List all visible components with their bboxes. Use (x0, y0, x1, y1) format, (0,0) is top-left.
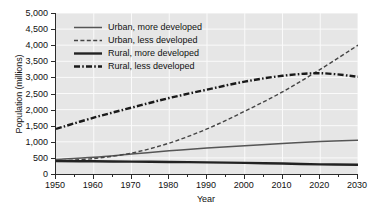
legend-label: Urban, more developed (108, 22, 202, 33)
x-tick-mark (55, 174, 56, 179)
x-tick-label: 2030 (337, 180, 371, 190)
x-tick-mark (187, 174, 188, 177)
legend-item: Urban, less developed (74, 34, 212, 47)
y-tick-mark (51, 61, 55, 62)
y-tick-label: 3,500 (8, 57, 48, 66)
y-tick-mark (51, 142, 55, 143)
x-tick-mark (244, 174, 245, 179)
x-tick-mark (225, 174, 226, 177)
y-tick-mark (51, 158, 55, 159)
x-tick-label: 2020 (299, 180, 339, 190)
legend-label: Urban, less developed (108, 35, 198, 46)
legend-item: Urban, more developed (74, 21, 212, 34)
x-tick-mark (168, 174, 169, 179)
y-tick-label: 4,000 (8, 41, 48, 50)
legend-label: Rural, less developed (108, 61, 195, 72)
y-tick-mark (51, 126, 55, 127)
x-tick-label: 2000 (224, 180, 264, 190)
x-tick-mark (300, 174, 301, 177)
x-tick-label: 1980 (148, 180, 188, 190)
y-tick-label: 2,000 (8, 105, 48, 114)
legend-label: Rural, more developed (108, 48, 199, 59)
legend-line-swatch (74, 48, 102, 59)
x-tick-label: 2010 (262, 180, 302, 190)
legend-item: Rural, less developed (74, 60, 212, 73)
y-axis-tick-labels: 05001,0001,5002,0002,5003,0003,5004,0004… (8, 13, 48, 174)
y-tick-mark (51, 45, 55, 46)
legend-line-swatch (74, 35, 102, 46)
x-axis-tick-labels: 195019601970198019902000201020202030 (55, 180, 357, 192)
y-tick-label: 3,000 (8, 73, 48, 82)
y-tick-mark (51, 94, 55, 95)
x-tick-mark (338, 174, 339, 177)
x-tick-label: 1970 (111, 180, 151, 190)
x-tick-mark (282, 174, 283, 179)
y-tick-label: 5,000 (8, 9, 48, 18)
x-tick-mark (112, 174, 113, 177)
y-tick-label: 0 (8, 170, 48, 179)
x-tick-label: 1950 (35, 180, 75, 190)
y-tick-mark (51, 29, 55, 30)
y-tick-label: 1,500 (8, 121, 48, 130)
y-tick-mark (51, 110, 55, 111)
x-tick-mark (131, 174, 132, 179)
x-tick-mark (149, 174, 150, 177)
x-tick-mark (74, 174, 75, 177)
x-tick-mark (93, 174, 94, 179)
x-tick-mark (357, 174, 358, 179)
x-tick-mark (263, 174, 264, 177)
y-tick-mark (51, 13, 55, 14)
x-tick-mark (206, 174, 207, 179)
x-tick-mark (319, 174, 320, 179)
legend-item: Rural, more developed (74, 47, 212, 60)
y-tick-label: 4,500 (8, 25, 48, 34)
legend-line-swatch (74, 61, 102, 72)
y-tick-label: 500 (8, 153, 48, 162)
x-tick-label: 1960 (73, 180, 113, 190)
x-axis-title: Year (55, 194, 357, 204)
y-tick-label: 1,000 (8, 137, 48, 146)
legend-line-swatch (74, 22, 102, 33)
y-tick-label: 2,500 (8, 89, 48, 98)
population-line-chart: Population (millions) 05001,0001,5002,00… (0, 0, 371, 209)
x-tick-label: 1990 (186, 180, 226, 190)
chart-legend: Urban, more developedUrban, less develop… (71, 18, 216, 76)
y-tick-mark (51, 77, 55, 78)
